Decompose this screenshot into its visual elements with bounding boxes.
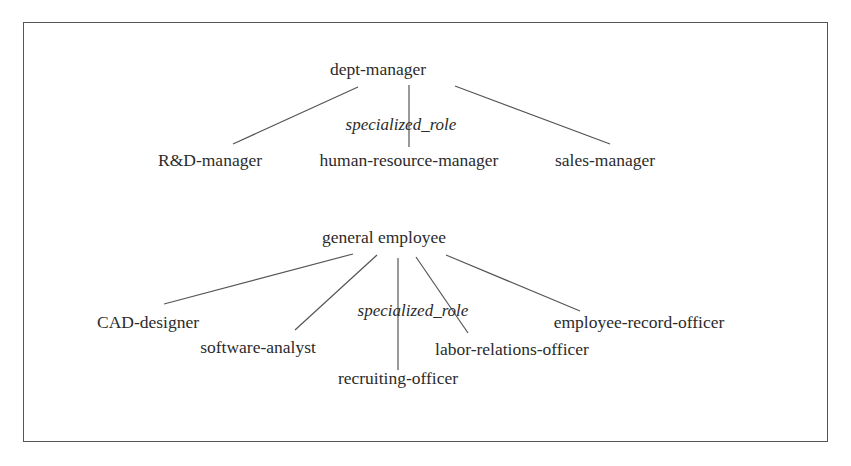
edge-general-employee-to-cad-designer	[164, 254, 353, 304]
node-general-employee: general employee	[322, 227, 446, 247]
edge-dept-manager-to-sales-manager	[455, 86, 610, 144]
relation-label-specialized-role: specialized_role	[346, 115, 457, 134]
relation-label-specialized-role: specialized_role	[358, 301, 469, 320]
node-sales-manager: sales-manager	[555, 150, 655, 170]
node-human-resource-manager: human-resource-manager	[320, 150, 499, 170]
node-dept-manager: dept-manager	[330, 59, 426, 79]
node-software-analyst: software-analyst	[200, 337, 316, 357]
node-rd-manager: R&D-manager	[158, 150, 262, 170]
node-cad-designer: CAD-designer	[97, 312, 199, 332]
edge-general-employee-to-labor-relations-officer	[416, 257, 468, 333]
edge-dept-manager-to-rd-manager	[233, 87, 358, 144]
node-labor-relations-officer: labor-relations-officer	[435, 339, 589, 359]
specialization-diagram: dept-manager specialized_role R&D-manage…	[0, 0, 851, 466]
node-recruiting-officer: recruiting-officer	[338, 368, 458, 388]
node-employee-record-officer: employee-record-officer	[554, 312, 725, 332]
